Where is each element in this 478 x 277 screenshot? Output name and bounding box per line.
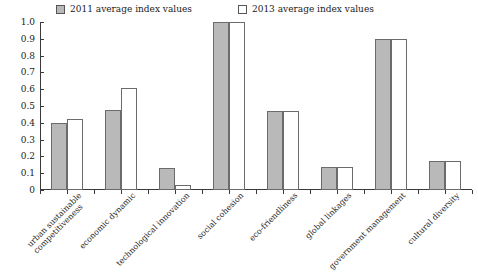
x-axis-category-label: cultural diversity [406,191,461,246]
bar-2011 [429,161,445,190]
legend-label-2013: 2013 average index values [252,5,374,14]
bar-2011 [375,39,391,190]
y-axis-tick-label: 0.1 [6,168,40,178]
bar-2013 [229,22,245,190]
bar-group [51,22,83,190]
bar-2011 [51,123,67,190]
y-axis-tick-label: 1.0 [6,17,40,27]
y-axis-tick-mark [40,56,44,57]
y-axis-tick-mark [40,39,44,40]
bar-group [159,22,191,190]
bar-group [213,22,245,190]
y-axis-tick-label: 0.2 [6,151,40,161]
bar-2013 [67,119,83,190]
plot-area: 1.00.90.80.70.60.50.40.30.20.10 [40,22,472,190]
bar-chart: 2011 average index values 2013 average i… [0,0,478,277]
bar-2013 [175,185,191,190]
legend-item-2013: 2013 average index values [238,5,374,14]
bar-group [105,22,137,190]
bar-2013 [121,88,137,190]
x-axis-category-label: social cohesion [195,191,245,241]
bar-2011 [213,22,229,190]
y-axis-tick-label: 0.9 [6,34,40,44]
legend-label-2011: 2011 average index values [70,5,192,14]
y-axis-tick-label: 0.8 [6,51,40,61]
bar-2013 [283,111,299,190]
bar-2011 [321,167,337,190]
legend-item-2011: 2011 average index values [56,5,192,14]
y-axis-tick-label: 0.4 [6,118,40,128]
x-axis-category-label: global linkages [304,191,354,241]
bar-2013 [391,39,407,190]
bar-2011 [159,168,175,190]
bar-group [267,22,299,190]
y-axis-tick-mark [40,156,44,157]
chart-legend: 2011 average index values 2013 average i… [56,2,374,16]
y-axis-tick-mark [40,89,44,90]
bar-2013 [445,161,461,190]
y-axis-tick-label: 0.3 [6,135,40,145]
y-axis-tick-label: 0.6 [6,84,40,94]
bar-2011 [105,110,121,190]
bar-2011 [267,111,283,190]
bar-group [375,22,407,190]
bar-group [429,22,461,190]
y-axis-tick-mark [40,123,44,124]
y-axis-tick-mark [40,140,44,141]
y-axis-tick-mark [40,22,44,23]
x-axis-labels: urban sustainablecompetitivenesseconomic… [40,191,478,277]
legend-swatch-2011-icon [56,5,65,14]
y-axis-tick-mark [40,72,44,73]
y-axis-tick-label: 0.5 [6,101,40,111]
y-axis-tick-mark [40,106,44,107]
y-axis-tick-label: 0.7 [6,67,40,77]
y-axis-tick-mark [40,173,44,174]
bar-group [321,22,353,190]
x-axis-category-label: eco-friendliness [248,191,300,243]
legend-swatch-2013-icon [238,5,247,14]
bar-2013 [337,167,353,190]
y-axis-tick-label: 0 [6,185,40,195]
